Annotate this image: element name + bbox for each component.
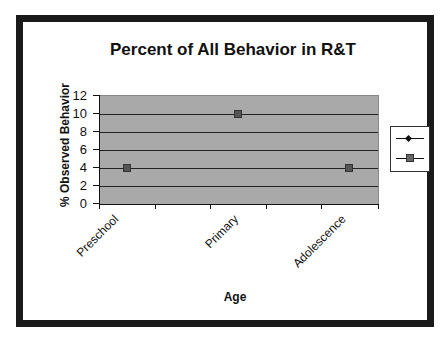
diamond-marker-icon [405,135,412,142]
x-axis [99,204,379,205]
x-tick [378,204,379,209]
y-tick [93,149,99,150]
y-tick [93,113,99,114]
y-tick-label: 2 [63,179,87,192]
chart-frame: Percent of All Behavior in R&T % Observe… [16,15,434,327]
gridline-6 [99,150,378,151]
y-tick-label: 4 [63,161,87,174]
y-tick-label: 0 [63,197,87,210]
x-tick [99,204,100,209]
square-marker-icon [406,154,414,162]
data-point-primary [234,110,242,118]
x-tick [155,204,156,209]
x-tick [321,204,322,209]
gridline-4 [99,168,378,169]
data-point-preschool [123,164,131,172]
gridline-8 [99,132,378,133]
x-tick-label-adolescence: Adolescence [290,212,348,270]
y-tick-label: 6 [63,143,87,156]
legend [390,126,430,172]
x-tick-label-primary: Primary [202,212,241,251]
data-point-adolescence [345,164,353,172]
y-tick [93,95,99,96]
y-tick [93,185,99,186]
gridline-2 [99,186,378,187]
y-tick [93,131,99,132]
chart-title: Percent of All Behavior in R&T [23,40,443,60]
x-tick-label-preschool: Preschool [73,212,121,260]
x-axis-label: Age [23,290,447,304]
y-tick [93,167,99,168]
y-axis [99,95,100,205]
y-tick-label: 12 [63,89,87,102]
y-tick-label: 10 [63,107,87,120]
x-tick [266,204,267,209]
x-tick [210,204,211,209]
y-tick-label: 8 [63,125,87,138]
